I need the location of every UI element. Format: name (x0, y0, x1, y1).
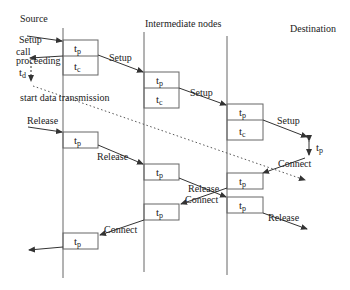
destination-header: Destination (290, 23, 336, 34)
setup-label-3: Setup (190, 87, 213, 98)
intermediate2-connect-box: tp (227, 173, 263, 189)
setup-label-4: Setup (277, 115, 300, 126)
connect-label-2: Connect (185, 194, 219, 205)
connect-arrow-out (29, 247, 63, 250)
intermediate1-release-box: tp (144, 164, 179, 180)
start-data-label: start data transmission (20, 92, 109, 103)
td-label: td (19, 66, 26, 80)
release-label-4: Release (268, 212, 300, 223)
intermediate-header: Intermediate nodes (145, 18, 221, 29)
intermediate2-processing-box: tp tc (227, 104, 263, 140)
intermediate2-release-box: tp (227, 197, 263, 213)
release-arrow-in (28, 127, 62, 132)
setup-label-2: Setup (109, 52, 132, 63)
svg-text:tp: tp (239, 199, 246, 213)
release-label-1: Release (27, 115, 59, 126)
svg-text:tc: tc (156, 93, 163, 107)
source-connect-box: tp (63, 233, 98, 249)
release-label-2: Release (97, 151, 129, 162)
intermediate1-processing-box: tp tc (144, 72, 179, 108)
setup-label-1: Setup (19, 34, 42, 45)
signaling-diagram: Source Intermediate nodes Destination tp… (0, 0, 350, 290)
svg-text:tp: tp (239, 106, 246, 120)
svg-text:tp: tp (156, 74, 163, 88)
svg-text:tp: tp (239, 175, 246, 189)
svg-text:tp: tp (156, 166, 163, 180)
svg-text:tp: tp (74, 235, 81, 249)
svg-text:tp: tp (156, 206, 163, 220)
destination-tp-label: tp (316, 141, 323, 155)
svg-text:tc: tc (239, 125, 246, 139)
svg-text:tp: tp (74, 42, 81, 56)
source-header: Source (20, 13, 48, 24)
svg-text:tc: tc (74, 60, 81, 74)
source-release-box: tp (63, 132, 98, 148)
source-processing-box: tp tc (63, 40, 98, 75)
intermediate1-connect-box: tp (144, 204, 179, 220)
proceeding-label: proceeding (16, 55, 60, 66)
connect-label-1: Connect (278, 158, 312, 169)
connect-label-3: Connect (104, 224, 138, 235)
svg-text:tp: tp (74, 134, 81, 148)
